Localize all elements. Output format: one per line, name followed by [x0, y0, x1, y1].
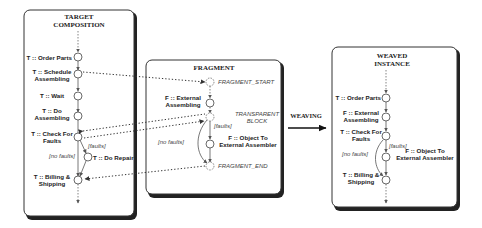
weaved-label-object-to-2: External Assembler — [396, 154, 454, 161]
weaved-node-check-for-faults[interactable] — [382, 132, 390, 140]
label-do-repair: T :: Do Repair — [93, 154, 134, 161]
label-wait: T :: Wait — [40, 92, 64, 99]
weaved-label-external-assembling-2: Assembling — [343, 116, 378, 123]
weaving-label: WEAVING — [290, 112, 322, 119]
weaved-label-check-for-faults-1: T :: Check For — [340, 128, 382, 135]
guard-no-faults: [no faults] — [48, 153, 75, 159]
label-object-to-1: F :: Object To — [228, 134, 268, 141]
label-fragment-start: FRAGMENT_START — [218, 79, 275, 85]
target-title-line1: TARGET — [64, 13, 93, 21]
weaved-title-line2: INSTANCE — [374, 60, 410, 68]
label-transparent-block-1: TRANSPARENT — [235, 111, 281, 117]
fragment-end-marker[interactable] — [206, 162, 214, 170]
fragment-start-marker[interactable] — [206, 78, 214, 86]
node-wait[interactable] — [74, 92, 82, 100]
weaved-node-object-to-external-assembler[interactable] — [382, 153, 390, 161]
weaved-node-billing-shipping[interactable] — [382, 176, 390, 184]
node-billing-shipping[interactable] — [74, 176, 82, 184]
node-do-repair[interactable] — [84, 153, 92, 161]
fragment-guard-faults: [faults] — [213, 123, 232, 129]
label-check-for-faults-1: T :: Check For — [31, 130, 73, 137]
label-fragment-end: FRAGMENT_END — [218, 163, 268, 169]
target-title-line2: COMPOSITION — [53, 21, 104, 29]
weaved-label-billing-shipping-2: Shipping — [348, 178, 375, 185]
label-do-assembling-1: T :: Do — [42, 107, 62, 114]
weaving-diagram: TARGET COMPOSITION T :: Order Parts T ::… — [0, 0, 482, 228]
label-external-assembling-2: Assembling — [165, 101, 200, 108]
label-object-to-2: External Assembler — [219, 141, 277, 148]
label-transparent-block-2: BLOCK — [247, 118, 268, 124]
label-order-parts: T :: Order Parts — [27, 54, 73, 61]
weaved-guard-no-faults: [no faults] — [341, 151, 368, 157]
fragment-title: FRAGMENT — [194, 64, 235, 72]
weaved-label-object-to-1: F :: Object To — [405, 147, 445, 154]
node-object-to-external-assembler[interactable] — [206, 140, 214, 148]
node-external-assembling[interactable] — [206, 99, 214, 107]
weaved-label-external-assembling-1: F :: External — [343, 109, 379, 116]
target-composition-panel: TARGET COMPOSITION T :: Order Parts T ::… — [24, 10, 137, 220]
weaved-label-check-for-faults-2: Faults — [352, 135, 371, 142]
weaved-instance-panel: WEAVED INSTANCE T :: Order Parts F :: Ex… — [332, 47, 460, 211]
fragment-panel: FRAGMENT FRAGMENT_START F :: External As… — [146, 60, 284, 198]
label-billing-shipping-2: Shipping — [39, 180, 66, 187]
node-check-for-faults[interactable] — [74, 133, 82, 141]
node-do-assembling[interactable] — [74, 112, 82, 120]
node-order-parts[interactable] — [74, 53, 82, 61]
weaved-label-order-parts: T :: Order Parts — [336, 94, 382, 101]
node-schedule-assembling[interactable] — [74, 70, 82, 78]
label-schedule-assembling-1: T :: Schedule — [33, 68, 72, 75]
label-do-assembling-2: Assembling — [34, 114, 69, 121]
label-schedule-assembling-2: Assembling — [34, 75, 69, 82]
label-external-assembling-1: F :: External — [165, 94, 201, 101]
guard-faults: [faults] — [87, 143, 106, 149]
fragment-guard-no-faults: [no faults] — [157, 139, 184, 145]
weaving-arrow: WEAVING — [288, 112, 326, 128]
weaved-title-line1: WEAVED — [377, 52, 408, 60]
transparent-block-marker[interactable] — [206, 113, 214, 121]
weaved-guard-faults: [faults] — [388, 143, 407, 149]
weaved-label-billing-shipping-1: T :: Billing & — [343, 171, 380, 178]
label-check-for-faults-2: Faults — [43, 137, 62, 144]
weaved-node-order-parts[interactable] — [382, 94, 390, 102]
label-billing-shipping-1: T :: Billing & — [34, 173, 71, 180]
weaved-node-external-assembling[interactable] — [382, 113, 390, 121]
